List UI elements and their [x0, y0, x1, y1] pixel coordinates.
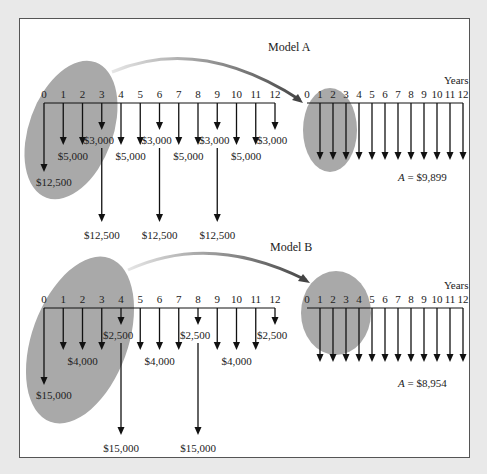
year-tick-label: 10	[231, 293, 243, 305]
year-tick-label: 8	[408, 293, 414, 305]
year-tick-label: 2	[80, 293, 86, 305]
year-tick-label: 11	[445, 293, 456, 305]
year-tick-label: 0	[304, 88, 310, 100]
year-tick-label: 2	[330, 293, 336, 305]
amount-label: $12,500	[36, 176, 72, 188]
arrowhead-icon	[460, 152, 467, 160]
highlight-ellipse-a-right	[303, 88, 357, 172]
year-tick-label: 8	[408, 88, 414, 100]
year-tick-label: 10	[231, 88, 243, 100]
amount-label: $4,000	[67, 355, 98, 367]
year-tick-label: 5	[369, 88, 375, 100]
arrowhead-icon	[356, 354, 363, 362]
transform-arrow-b	[128, 253, 306, 280]
year-tick-label: 1	[317, 293, 323, 305]
year-tick-label: 12	[458, 293, 469, 305]
year-tick-label: 10	[432, 88, 444, 100]
year-tick-label: 8	[195, 88, 201, 100]
year-tick-label: 12	[270, 88, 281, 100]
year-tick-label: 3	[343, 88, 349, 100]
years-label-a: Years	[444, 74, 469, 86]
year-tick-label: 11	[445, 88, 456, 100]
year-tick-label: 9	[421, 88, 427, 100]
arrowhead-icon	[195, 317, 202, 325]
arrowhead-icon	[272, 317, 279, 325]
year-tick-label: 9	[215, 88, 221, 100]
amount-label: $3,000	[257, 134, 288, 146]
year-tick-label: 5	[138, 88, 144, 100]
amount-label: $2,500	[103, 329, 134, 341]
year-tick-label: 7	[176, 293, 182, 305]
year-tick-label: 9	[215, 293, 221, 305]
year-tick-label: 3	[99, 293, 105, 305]
arrowhead-icon	[118, 427, 125, 435]
model-a: Model A Years 0123456789101112$12,500$3,…	[7, 40, 469, 241]
arrowhead-icon	[369, 354, 376, 362]
year-tick-label: 1	[317, 88, 323, 100]
year-tick-label: 6	[157, 293, 163, 305]
year-tick-label: 7	[176, 88, 182, 100]
year-tick-label: 4	[356, 88, 362, 100]
year-tick-label: 0	[41, 293, 47, 305]
year-tick-label: 7	[395, 293, 401, 305]
year-tick-label: 5	[369, 293, 375, 305]
arrowhead-icon	[233, 342, 240, 350]
arrowhead-icon	[408, 152, 415, 160]
arrowhead-icon	[382, 354, 389, 362]
arrowhead-icon	[137, 342, 144, 350]
arrowhead-icon	[421, 152, 428, 160]
arrowhead-icon	[233, 137, 240, 145]
arrowhead-icon	[156, 214, 163, 222]
arrowhead-icon	[356, 152, 363, 160]
year-tick-label: 4	[118, 88, 124, 100]
year-tick-label: 7	[395, 88, 401, 100]
cash-flow-diagram: Model A Years 0123456789101112$12,500$3,…	[0, 0, 487, 474]
year-tick-label: 2	[330, 88, 336, 100]
arrowhead-icon	[156, 122, 163, 130]
amount-label: $3,000	[199, 134, 230, 146]
highlight-ellipse-b-right	[301, 271, 371, 355]
arrowhead-icon	[395, 152, 402, 160]
amount-label: $12,500	[84, 229, 120, 241]
year-tick-label: 1	[61, 88, 67, 100]
year-tick-label: 10	[432, 293, 444, 305]
amount-label: $15,000	[36, 389, 72, 401]
arrowhead-icon	[214, 122, 221, 130]
year-tick-label: 4	[118, 293, 124, 305]
year-tick-label: 0	[304, 293, 310, 305]
arrowhead-icon	[272, 122, 279, 130]
model-b-title: Model B	[270, 240, 312, 254]
arrowhead-icon	[252, 342, 259, 350]
year-tick-label: 9	[421, 293, 427, 305]
year-tick-label: 4	[356, 293, 362, 305]
year-tick-label: 1	[61, 293, 67, 305]
arrowhead-icon	[330, 354, 337, 362]
amount-label: $5,000	[173, 150, 204, 162]
arrowhead-icon	[434, 354, 441, 362]
amount-label: $2,500	[180, 329, 211, 341]
amount-label: $2,500	[257, 329, 288, 341]
arrowhead-icon	[156, 342, 163, 350]
arrowhead-icon	[434, 152, 441, 160]
year-tick-label: 6	[382, 293, 388, 305]
model-a-title: Model A	[268, 40, 311, 54]
amount-label: $5,000	[116, 150, 147, 162]
arrowhead-icon	[118, 137, 125, 145]
year-tick-label: 12	[270, 293, 281, 305]
model-b: Model B Years 0123456789101112$15,000$2,…	[5, 240, 468, 454]
amount-label: $3,000	[142, 134, 173, 146]
amount-label: $12,500	[199, 229, 235, 241]
equivalent-annual-a: A = $9,899	[397, 171, 447, 183]
arrowhead-icon	[447, 152, 454, 160]
amount-label: $12,500	[142, 229, 178, 241]
year-tick-label: 11	[250, 293, 261, 305]
amount-label: $15,000	[103, 442, 139, 454]
amount-label: $15,000	[180, 442, 216, 454]
year-tick-label: 6	[382, 88, 388, 100]
arrowhead-icon	[382, 152, 389, 160]
arrowhead-icon	[447, 354, 454, 362]
arrowhead-icon	[317, 354, 324, 362]
year-tick-label: 3	[99, 88, 105, 100]
year-tick-label: 11	[250, 88, 261, 100]
arrowhead-icon	[369, 152, 376, 160]
